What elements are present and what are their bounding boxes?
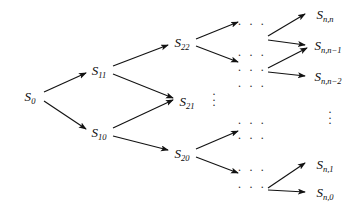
node-subscript: n,n−2 bbox=[321, 75, 342, 85]
node-base-symbol: S bbox=[316, 185, 323, 200]
ellipsis-dot: · bbox=[328, 121, 332, 127]
node-base-symbol: S bbox=[174, 146, 181, 161]
node-label-s10: S10 bbox=[91, 126, 106, 139]
node-label-s21: S21 bbox=[179, 95, 194, 108]
lattice-edge-dots-r2-to-snn1 bbox=[268, 48, 307, 68]
node-subscript: n,n−1 bbox=[321, 44, 342, 54]
node-subscript: 10 bbox=[98, 131, 107, 141]
lattice-edge-s0-to-s11 bbox=[44, 73, 86, 92]
lattice-edge-s22-to-dots-r1 bbox=[196, 22, 238, 39]
node-base-symbol: S bbox=[91, 125, 98, 140]
horizontal-ellipsis-dots-r4b: · · · bbox=[238, 181, 267, 193]
node-label-snn: Sn,n bbox=[316, 8, 333, 21]
node-subscript: n,1 bbox=[323, 163, 334, 173]
lattice-edge-s10-to-s21 bbox=[113, 100, 173, 128]
horizontal-ellipsis-dots-r1: · · · bbox=[238, 18, 267, 30]
horizontal-ellipsis-dots-r1b: · · · bbox=[238, 49, 267, 61]
lattice-edge-dots-r4-to-sn0 bbox=[268, 190, 305, 192]
node-base-symbol: S bbox=[179, 94, 186, 109]
lattice-edge-s11-to-s21 bbox=[113, 74, 173, 98]
node-subscript: 11 bbox=[98, 69, 106, 79]
node-subscript: 0 bbox=[31, 95, 35, 105]
node-base-symbol: S bbox=[316, 7, 323, 22]
vertical-ellipsis-dots-v-right: ··· bbox=[328, 110, 332, 127]
lattice-edge-dots-r2-to-snn2 bbox=[268, 72, 305, 76]
node-base-symbol: S bbox=[174, 35, 181, 50]
lattice-edge-dots-r1-to-snn bbox=[268, 14, 305, 36]
lattice-edge-s10-to-s20 bbox=[113, 136, 168, 150]
lattice-edge-s20-to-dots-r4 bbox=[196, 157, 238, 173]
node-subscript: n,n bbox=[323, 13, 334, 23]
node-subscript: n,0 bbox=[323, 191, 334, 201]
node-label-sn1: Sn,1 bbox=[316, 158, 333, 171]
node-label-s20: S20 bbox=[174, 147, 189, 160]
lattice-edge-s20-to-dots-r3 bbox=[196, 131, 238, 149]
lattice-edge-dots-r1-to-snn1 bbox=[268, 40, 305, 45]
horizontal-ellipsis-dots-r4: · · · bbox=[238, 164, 267, 176]
node-label-sn0: Sn,0 bbox=[316, 186, 333, 199]
ellipsis-dot: · bbox=[212, 103, 216, 109]
node-base-symbol: S bbox=[92, 63, 99, 78]
lattice-edge-s11-to-s22 bbox=[113, 45, 168, 66]
lattice-edge-dots-r4-to-sn1 bbox=[268, 163, 305, 188]
horizontal-ellipsis-dots-r3: · · · bbox=[238, 117, 267, 129]
node-label-snn2: Sn,n−2 bbox=[314, 70, 341, 83]
lattice-edge-s0-to-s10 bbox=[44, 101, 86, 129]
vertical-ellipsis-dots-v-mid: ··· bbox=[212, 92, 216, 109]
node-subscript: 22 bbox=[181, 41, 190, 51]
node-label-snn1: Sn,n−1 bbox=[314, 39, 341, 52]
node-subscript: 21 bbox=[186, 100, 195, 110]
node-base-symbol: S bbox=[314, 69, 321, 84]
horizontal-ellipsis-dots-r2: · · · bbox=[238, 64, 267, 76]
node-label-s11: S11 bbox=[92, 64, 106, 77]
node-subscript: 20 bbox=[181, 152, 190, 162]
node-label-s0: S0 bbox=[25, 90, 36, 103]
node-base-symbol: S bbox=[316, 157, 323, 172]
horizontal-ellipsis-dots-r2b: · · · bbox=[238, 80, 267, 92]
lattice-edge-s22-to-dots-r2 bbox=[196, 46, 238, 62]
lattice-diagram: S0S11S10S22S21S20Sn,nSn,n−1Sn,n−2Sn,1Sn,… bbox=[0, 0, 356, 210]
node-label-s22: S22 bbox=[174, 36, 189, 49]
node-base-symbol: S bbox=[25, 89, 32, 104]
node-base-symbol: S bbox=[314, 38, 321, 53]
lattice-edges-layer bbox=[0, 0, 356, 210]
horizontal-ellipsis-dots-r3b: · · · bbox=[238, 132, 267, 144]
